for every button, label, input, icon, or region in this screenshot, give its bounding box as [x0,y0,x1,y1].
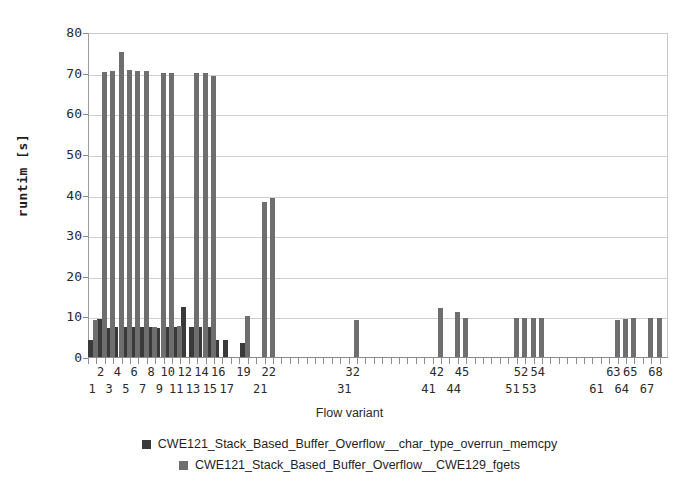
y-axis-tick-label: 70 [46,67,82,80]
bar [657,318,662,357]
x-axis-tick-mark [357,358,358,364]
x-axis-tick-mark [592,358,593,364]
x-axis-tick-mark [508,358,509,364]
bar [623,319,628,357]
x-axis-tick-label: 67 [634,382,660,396]
bar-chart: runtim [s] 01020304050607080 12345678910… [0,0,699,500]
x-axis-tick-mark [651,358,652,364]
y-axis-title: runtim [s] [15,106,30,246]
y-axis-tick-label: 50 [46,148,82,161]
x-axis-tick-mark [130,358,131,364]
x-axis-tick-mark [382,358,383,364]
x-axis-tick-mark [172,358,173,364]
x-axis-tick-label: 53 [516,382,542,396]
bar [531,318,536,357]
x-axis-tick-mark [525,358,526,364]
x-axis-tick-label: 16 [205,365,231,379]
bars-layer [89,34,667,357]
x-axis-tick-mark [340,358,341,364]
x-axis-tick-mark [567,358,568,364]
legend-item: CWE121_Stack_Based_Buffer_Overflow__CWE1… [0,458,699,472]
x-axis-tick-mark [550,358,551,364]
bar [127,70,132,357]
x-axis-tick-mark [517,358,518,364]
x-axis-tick-mark [601,358,602,364]
x-axis-tick-mark [265,358,266,364]
x-axis-title: Flow variant [0,406,699,420]
x-axis-ticks [88,358,668,365]
x-axis-tick-mark [559,358,560,364]
y-axis-tick-label: 60 [46,107,82,120]
x-axis-tick-mark [491,358,492,364]
y-axis-tick-label: 40 [46,189,82,202]
bar [514,318,519,357]
x-axis-tick-mark [164,358,165,364]
x-axis-tick-label: 61 [584,382,610,396]
x-axis-tick-mark [424,358,425,364]
x-axis-tick-mark [323,358,324,364]
x-axis-tick-label: 41 [415,382,441,396]
y-axis-tick-label: 80 [46,26,82,39]
x-axis-tick-mark [315,358,316,364]
x-axis-tick-label: 31 [331,382,357,396]
x-axis-tick-mark [441,358,442,364]
bar [119,52,124,357]
x-axis-tick-mark [449,358,450,364]
x-axis-tick-mark [458,358,459,364]
bar [615,320,620,357]
bar [539,318,544,357]
x-axis-tick-mark [307,358,308,364]
x-axis-tick-mark [147,358,148,364]
bar [135,71,140,357]
bar [262,202,267,357]
y-axis-tick-label: 20 [46,270,82,283]
x-axis-tick-mark [222,358,223,364]
bar [455,312,460,358]
legend-item: CWE121_Stack_Based_Buffer_Overflow__char… [0,437,699,451]
legend: CWE121_Stack_Based_Buffer_Overflow__char… [0,437,699,479]
y-axis-tick-label: 10 [46,310,82,323]
x-axis-tick-mark [180,358,181,364]
bar [161,73,166,357]
bar [270,198,275,357]
x-axis-tick-mark [433,358,434,364]
x-axis-tick-label: 64 [609,382,635,396]
x-axis-tick-mark [248,358,249,364]
x-axis-tick-mark [374,358,375,364]
x-axis-tick-mark [534,358,535,364]
bar [194,73,199,357]
legend-swatch-icon [179,461,188,470]
x-axis-tick-mark [122,358,123,364]
legend-item-label: CWE121_Stack_Based_Buffer_Overflow__CWE1… [195,458,520,472]
bar [169,73,174,357]
x-axis-tick-label: 44 [441,382,467,396]
x-axis-tick-mark [155,358,156,364]
x-axis-tick-labels: 1234567891011121314151617192122313241424… [88,365,668,399]
x-axis-tick-mark [475,358,476,364]
bar [110,71,115,357]
x-axis-tick-mark [138,358,139,364]
y-axis-tick-label: 30 [46,229,82,242]
x-axis-tick-label: 21 [247,382,273,396]
bar [354,320,359,357]
x-axis-tick-mark [660,358,661,364]
x-axis-tick-mark [643,358,644,364]
x-axis-tick-label: 22 [256,365,282,379]
bar [102,72,107,357]
bar [211,76,216,357]
bar [245,316,250,357]
x-axis-tick-mark [197,358,198,364]
x-axis-tick-mark [626,358,627,364]
x-axis-tick-mark [500,358,501,364]
bar [144,71,149,357]
x-axis-tick-mark [407,358,408,364]
x-axis-tick-mark [365,358,366,364]
x-axis-tick-mark [96,358,97,364]
bar [203,73,208,357]
bar [648,318,653,357]
x-axis-tick-mark [105,358,106,364]
x-axis-tick-mark [483,358,484,364]
bar [463,318,468,357]
x-axis-tick-mark [618,358,619,364]
bar [152,327,157,357]
